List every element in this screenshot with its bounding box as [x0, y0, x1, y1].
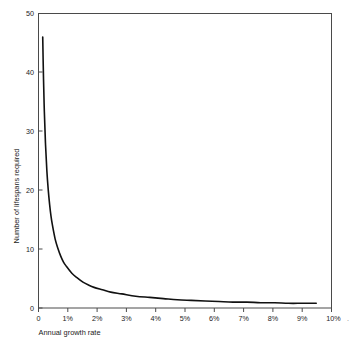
x-axis-ticks [39, 308, 332, 312]
y-tick-label-0: 0 [30, 304, 34, 313]
y-tick-label-20: 20 [26, 186, 34, 195]
y-tick-label-40: 40 [26, 68, 34, 77]
x-tick-label-1: 1% [63, 314, 74, 323]
x-tick-label-8: 8% [268, 314, 279, 323]
x-tick-label-9: 9% [297, 314, 308, 323]
x-tick-label-2: 2% [92, 314, 103, 323]
x-tick-label-7: 7% [238, 314, 249, 323]
y-tick-label-50: 50 [26, 9, 34, 18]
y-axis-tick-labels: 0 10 20 30 40 50 [26, 9, 34, 313]
line-chart-canvas: 0 10 20 30 40 50 0 1% 2% 3% 4% 5% 6% 7% … [0, 0, 363, 345]
x-tick-label-6: 6% [209, 314, 220, 323]
chart-figure: 0 10 20 30 40 50 0 1% 2% 3% 4% 5% 6% 7% … [0, 0, 363, 345]
x-axis-tick-labels: 0 1% 2% 3% 4% 5% 6% 7% 8% 9% 10% . [37, 314, 350, 323]
y-tick-label-10: 10 [26, 245, 34, 254]
x-axis-title: Annual growth rate [39, 328, 101, 337]
x-tick-label-0: 0 [37, 314, 41, 323]
plot-frame [39, 14, 332, 309]
y-tick-label-30: 30 [26, 127, 34, 136]
data-curve-lifespans [43, 37, 317, 303]
x-tick-label-5: 5% [180, 314, 191, 323]
x-tick-label-4: 4% [151, 314, 162, 323]
y-axis-title: Number of lifespans required [12, 149, 21, 244]
y-axis-ticks [39, 14, 43, 309]
x-tick-label-3: 3% [121, 314, 132, 323]
trailing-dot-artifact: . [347, 314, 349, 323]
x-tick-label-10: 10% [326, 314, 341, 323]
